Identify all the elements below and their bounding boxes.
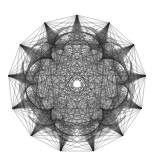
star-chord-rosette-canvas [0, 0, 157, 165]
figure-container [0, 0, 157, 165]
